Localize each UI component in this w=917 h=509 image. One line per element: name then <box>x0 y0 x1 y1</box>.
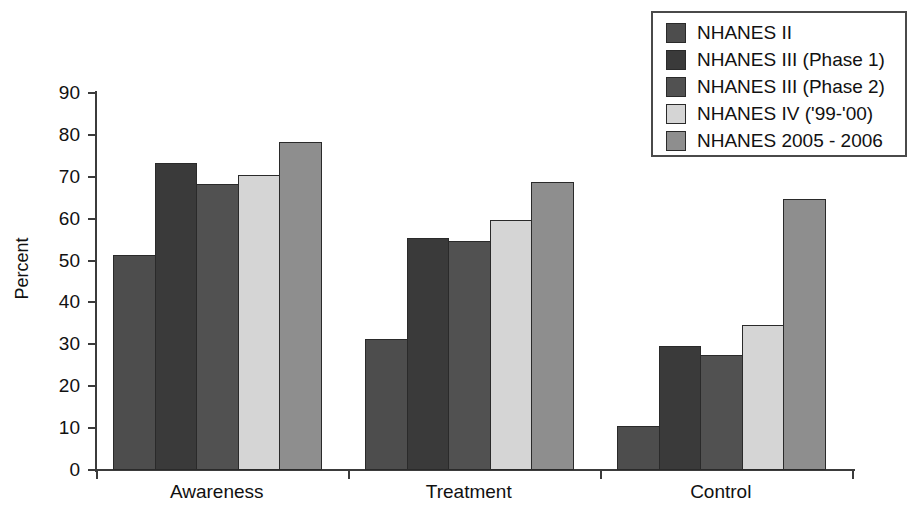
x-axis-tick <box>852 470 854 479</box>
bar <box>448 241 491 470</box>
y-axis-tick <box>88 218 96 220</box>
y-axis-tick <box>88 427 96 429</box>
y-axis-tick <box>88 301 96 303</box>
bar <box>700 355 743 470</box>
y-axis-tick-label-text: 10 <box>34 418 80 437</box>
legend-item-label: NHANES 2005 - 2006 <box>697 131 883 151</box>
x-axis-tick <box>96 470 98 479</box>
x-axis-category-label: Treatment <box>379 482 559 502</box>
bar <box>742 325 785 470</box>
y-axis-tick-label: 20 <box>34 376 80 395</box>
x-axis-category-label: Awareness <box>127 482 307 502</box>
y-axis-tick-label-text: 40 <box>34 292 80 311</box>
y-axis-tick-label: 10 <box>34 418 80 437</box>
bar-chart: Percent 0102030405060708090AwarenessTrea… <box>0 0 917 509</box>
bar <box>279 142 322 470</box>
y-axis-tick-label: 50 <box>34 251 80 270</box>
bar <box>617 426 660 470</box>
x-axis-category-label: Control <box>631 482 811 502</box>
y-axis-title: Percent <box>12 209 33 329</box>
y-axis-tick-label-text: 90 <box>34 83 80 102</box>
y-axis-tick <box>88 343 96 345</box>
y-axis-tick-label: 60 <box>34 209 80 228</box>
y-axis-tick <box>88 176 96 178</box>
legend-item: NHANES 2005 - 2006 <box>666 128 905 154</box>
y-axis-tick <box>88 134 96 136</box>
y-axis-line <box>95 91 97 472</box>
legend-item-label: NHANES IV ('99-'00) <box>697 104 873 124</box>
y-axis-tick <box>88 92 96 94</box>
x-axis-tick <box>600 470 602 479</box>
legend: NHANES IINHANES III (Phase 1)NHANES III … <box>651 11 907 157</box>
bar <box>407 238 450 470</box>
y-axis-tick-label: 80 <box>34 125 80 144</box>
y-axis-tick-label: 90 <box>34 83 80 102</box>
legend-items: NHANES IINHANES III (Phase 1)NHANES III … <box>666 20 905 154</box>
y-axis-tick-label-text: 70 <box>34 167 80 186</box>
legend-swatch-icon <box>666 104 686 124</box>
bar <box>490 220 533 470</box>
legend-swatch-icon <box>666 77 686 97</box>
y-axis-tick-label: 70 <box>34 167 80 186</box>
legend-swatch-icon <box>666 23 686 43</box>
y-axis-tick-label-text: 30 <box>34 334 80 353</box>
y-axis-tick-label: 0 <box>34 460 80 479</box>
legend-item-label: NHANES II <box>697 23 792 43</box>
legend-item: NHANES III (Phase 2) <box>666 74 905 100</box>
legend-swatch-icon <box>666 50 686 70</box>
legend-item-label: NHANES III (Phase 1) <box>697 50 885 70</box>
legend-item: NHANES III (Phase 1) <box>666 47 905 73</box>
y-axis-tick-label: 40 <box>34 292 80 311</box>
y-axis-tick-label-text: 50 <box>34 251 80 270</box>
y-axis-tick-label-text: 0 <box>34 460 80 479</box>
y-axis-tick-label: 30 <box>34 334 80 353</box>
y-axis-tick-label-text: 20 <box>34 376 80 395</box>
bar <box>783 199 826 470</box>
bar <box>365 339 408 470</box>
y-axis-tick-label-text: 60 <box>34 209 80 228</box>
legend-swatch-icon <box>666 131 686 151</box>
bar <box>238 175 281 470</box>
bar <box>196 184 239 470</box>
legend-item: NHANES IV ('99-'00) <box>666 101 905 127</box>
y-axis-tick-label-text: 80 <box>34 125 80 144</box>
legend-item: NHANES II <box>666 20 905 46</box>
bar <box>531 182 574 470</box>
y-axis-tick <box>88 469 96 471</box>
bar <box>155 163 198 470</box>
y-axis-tick <box>88 260 96 262</box>
legend-item-label: NHANES III (Phase 2) <box>697 77 885 97</box>
bar <box>113 255 156 470</box>
x-axis-tick <box>348 470 350 479</box>
y-axis-tick <box>88 385 96 387</box>
bar <box>659 346 702 470</box>
